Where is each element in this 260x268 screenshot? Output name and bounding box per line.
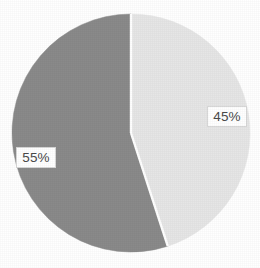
pie-slice-label-55: 55% bbox=[16, 147, 56, 168]
pie-slice-label-45: 45% bbox=[207, 106, 247, 127]
pie-chart-canvas bbox=[0, 0, 260, 268]
pie-chart-figure: 45% 55% bbox=[0, 0, 260, 268]
